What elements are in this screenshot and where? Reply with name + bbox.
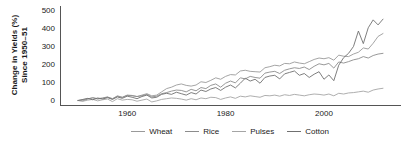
legend-label: Rice [203, 127, 219, 136]
chart-plot-area [0, 0, 411, 145]
y-axis-tick-label: 400 [33, 25, 55, 33]
legend-swatch-icon [287, 131, 301, 132]
y-axis-tick-label: 100 [33, 79, 55, 87]
legend-label: Cotton [305, 127, 329, 136]
legend-item-rice[interactable]: Rice [185, 127, 219, 136]
legend-label: Wheat [149, 127, 172, 136]
series-line-wheat [78, 34, 383, 101]
x-axis-tick-label: 1960 [107, 110, 147, 118]
x-axis-tick-label: 1980 [206, 110, 246, 118]
legend-swatch-icon [232, 131, 246, 132]
y-axis-tick-label: 300 [33, 43, 55, 51]
chart-series-group [78, 19, 383, 102]
legend-item-cotton[interactable]: Cotton [287, 127, 329, 136]
x-axis-tick-label: 2000 [304, 110, 344, 118]
legend-item-wheat[interactable]: Wheat [131, 127, 172, 136]
y-axis-tick-label: 500 [33, 7, 55, 15]
legend-swatch-icon [131, 131, 145, 132]
series-line-cotton [78, 19, 383, 100]
legend-item-pulses[interactable]: Pulses [232, 127, 274, 136]
chart-figure: Change in Yields (%) Since 1950–51 01002… [0, 0, 411, 145]
y-axis-tick-label: 200 [33, 61, 55, 69]
y-axis-tick-label: 0 [33, 97, 55, 105]
series-line-pulses [78, 88, 383, 102]
chart-legend: WheatRicePulsesCotton [60, 127, 400, 136]
legend-swatch-icon [185, 131, 199, 132]
legend-label: Pulses [250, 127, 274, 136]
